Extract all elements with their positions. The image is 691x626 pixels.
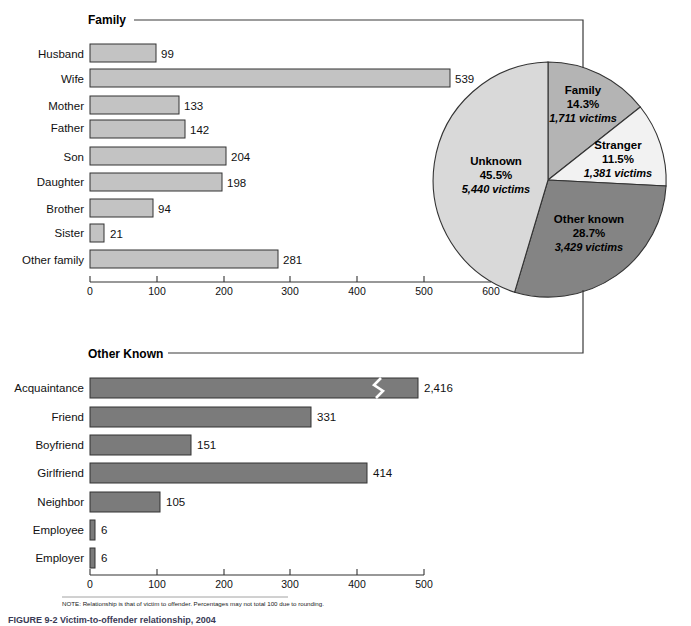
family-value-label-0: 99 [161,48,174,60]
other-known-xtick-0: 0 [87,578,93,590]
pie-label-stranger-percent: 11.5% [602,153,634,165]
figure-caption: FIGURE 9-2 Victim-to-offender relationsh… [8,615,216,625]
figure-footer: NOTE: Relationship is that of victim to … [8,597,324,625]
other-known-xtick-1: 100 [148,578,166,590]
other-known-bar-employee [90,520,95,540]
family-cat-label-1: Wife [61,73,84,85]
figure-svg: Family Husband Wife Mother Father Son Da… [0,0,691,626]
family-cat-label-7: Sister [55,227,85,239]
other-known-value-label-4: 105 [166,496,185,508]
other-known-value-label-5: 6 [101,524,107,536]
family-bar-wife [90,69,450,87]
family-cat-label-8: Other family [22,254,84,266]
other-known-section-title: Other Known [88,347,163,361]
pie-label-family-name: Family [565,84,602,96]
figure-container: Family Husband Wife Mother Father Son Da… [0,0,691,626]
other-known-cat-label-1: Friend [51,411,84,423]
family-value-label-1: 539 [455,73,474,85]
family-cat-label-3: Father [51,122,84,134]
family-cat-label-4: Son [64,151,84,163]
family-xtick-2: 200 [215,285,233,297]
other-known-cat-label-2: Boyfriend [35,439,84,451]
family-value-label-6: 94 [158,203,171,215]
other-known-cat-label-4: Neighbor [37,496,84,508]
family-value-label-3: 142 [190,124,209,136]
family-xtick-5: 500 [415,285,433,297]
family-bar-father [90,120,185,138]
family-value-label-5: 198 [227,177,246,189]
other-known-bar-friend [90,407,311,427]
family-xtick-0: 0 [87,285,93,297]
other-known-value-label-3: 414 [373,467,393,479]
family-x-axis: 0 100 200 300 400 500 600 [87,276,500,297]
other-known-section: Other Known Acquaintance Friend Boyfrien… [14,290,583,590]
other-known-cat-label-5: Employee [33,524,84,536]
family-bar-mother [90,96,179,114]
other-known-value-label-0: 2,416 [424,382,453,394]
family-value-label-8: 281 [283,254,302,266]
other-known-xtick-3: 300 [281,578,299,590]
other-known-bar-boyfriend [90,435,191,455]
other-known-connector-line [168,290,583,353]
family-value-label-7: 21 [110,228,123,240]
other-known-value-label-2: 151 [197,439,216,451]
pie-label-family-victims: 1,711 victims [549,112,617,124]
other-known-bar-girlfriend [90,463,367,483]
other-known-cat-label-6: Employer [35,552,84,564]
other-known-bar-employer [90,548,95,568]
family-xtick-1: 100 [148,285,166,297]
family-bar-sister [90,224,104,242]
other-known-value-label-6: 6 [101,552,107,564]
family-bar-son [90,147,226,165]
family-xtick-3: 300 [281,285,299,297]
other-known-bar-acquaintance [90,378,418,398]
family-value-label-4: 204 [231,151,251,163]
pie-label-other-known-victims: 3,429 victims [555,241,624,253]
pie-label-stranger-name: Stranger [594,139,642,151]
family-cat-label-0: Husband [38,48,84,60]
pie-label-family-percent: 14.3% [567,98,600,110]
figure-note: NOTE: Relationship is that of victim to … [62,600,324,607]
other-known-value-label-1: 331 [317,411,336,423]
other-known-bar-neighbor [90,492,160,512]
pie-label-other-known-name: Other known [554,213,624,225]
pie-label-other-known-percent: 28.7% [573,227,606,239]
family-cat-label-6: Brother [46,203,84,215]
relationship-pie-chart: Family 14.3% 1,711 victims Stranger 11.5… [433,62,666,297]
family-cat-label-5: Daughter [37,176,84,188]
family-value-label-2: 133 [184,100,203,112]
other-known-xtick-2: 200 [215,578,233,590]
pie-label-stranger-victims: 1,381 victims [584,167,653,179]
family-bar-husband [90,44,156,62]
other-known-cat-label-0: Acquaintance [14,382,84,394]
family-bar-brother [90,199,153,217]
family-xtick-6: 600 [482,285,500,297]
pie-label-unknown-victims: 5,440 victims [462,183,531,195]
family-xtick-4: 400 [348,285,366,297]
other-known-xtick-4: 400 [348,578,366,590]
other-known-cat-label-3: Girlfriend [37,467,84,479]
pie-label-unknown-name: Unknown [470,155,522,167]
pie-label-unknown-percent: 45.5% [480,169,513,181]
family-bar-daughter [90,173,222,191]
family-connector-line [134,20,583,70]
family-cat-label-2: Mother [48,100,84,112]
family-section-title: Family [88,13,126,27]
family-bar-other-family [90,250,278,268]
other-known-x-axis: 0 100 200 300 400 500 [87,569,433,590]
other-known-xtick-5: 500 [415,578,433,590]
